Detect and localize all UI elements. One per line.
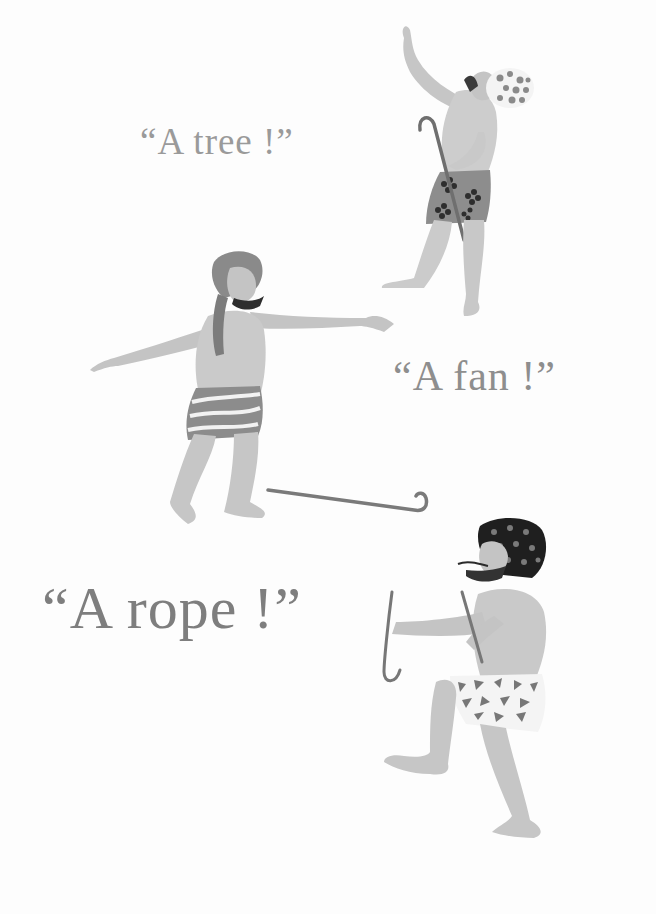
man-holding-rope-illustration bbox=[370, 512, 580, 857]
standing-leg bbox=[480, 724, 541, 838]
caption-fan: “A fan !” bbox=[393, 352, 556, 400]
book-page: “A tree !” “A fan !” “A rope !” bbox=[0, 0, 656, 914]
cane-held-left bbox=[384, 592, 400, 681]
left-leg bbox=[170, 434, 216, 524]
caption-tree: “A tree !” bbox=[140, 120, 294, 163]
torso bbox=[196, 311, 266, 398]
raised-leg bbox=[384, 680, 456, 775]
right-arm bbox=[250, 312, 394, 332]
caption-rope: “A rope !” bbox=[42, 574, 302, 643]
right-leg bbox=[463, 220, 484, 316]
polka-dot-turban bbox=[486, 68, 534, 108]
right-leg bbox=[224, 432, 265, 518]
